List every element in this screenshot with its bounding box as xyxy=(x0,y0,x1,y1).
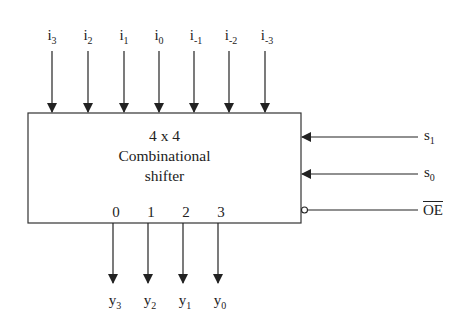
output-label-y2: y2 xyxy=(144,293,157,311)
input-label-im2: i-2 xyxy=(225,28,238,46)
output-arrows xyxy=(113,223,218,283)
output-pin-2: 2 xyxy=(182,205,190,220)
control-arrows xyxy=(302,137,419,213)
inversion-bubble-icon xyxy=(302,207,308,213)
block-title-type: Combinational xyxy=(28,146,301,166)
output-pin-3: 3 xyxy=(217,205,225,220)
output-pin-1: 1 xyxy=(147,205,155,220)
control-label-s0: s0 xyxy=(424,165,435,183)
input-label-im1: i-1 xyxy=(190,28,203,46)
input-label-i2: i2 xyxy=(83,28,92,46)
output-label-y1: y1 xyxy=(179,293,192,311)
control-label-s1: s1 xyxy=(424,128,435,146)
output-label-y0: y0 xyxy=(214,293,227,311)
input-arrows xyxy=(52,51,265,112)
block-title: 4 x 4 Combinational shifter xyxy=(28,126,301,186)
control-label-oe: OE xyxy=(423,203,443,218)
output-label-y3: y3 xyxy=(109,293,122,311)
output-pin-0: 0 xyxy=(112,205,120,220)
input-label-i0: i0 xyxy=(154,28,163,46)
input-label-i1: i1 xyxy=(119,28,128,46)
input-label-im3: i-3 xyxy=(261,28,274,46)
block-title-size: 4 x 4 xyxy=(28,126,301,146)
block-title-name: shifter xyxy=(28,166,301,186)
input-label-i3: i3 xyxy=(47,28,56,46)
